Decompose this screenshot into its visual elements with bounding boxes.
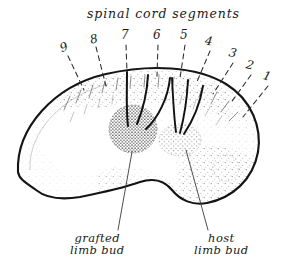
segment-number-4: 4 — [204, 35, 213, 49]
grafted-limb-bud — [109, 105, 157, 153]
caption-host-limb-bud: host limb bud — [194, 232, 249, 256]
segment-number-7: 7 — [121, 29, 129, 42]
caption-host-line-2: limb bud — [194, 244, 249, 256]
leader-7 — [126, 45, 127, 72]
caption-grafted-limb-bud: grafted limb bud — [70, 232, 125, 256]
title-spinal-cord-segments: spinal cord segments — [87, 7, 240, 20]
segment-number-5: 5 — [180, 29, 188, 42]
figure-panel: spinal cord segments 9 8 7 6 5 4 3 2 1 g… — [0, 0, 282, 272]
segment-number-6: 6 — [153, 29, 161, 42]
caption-grafted-line-2: limb bud — [70, 244, 125, 256]
